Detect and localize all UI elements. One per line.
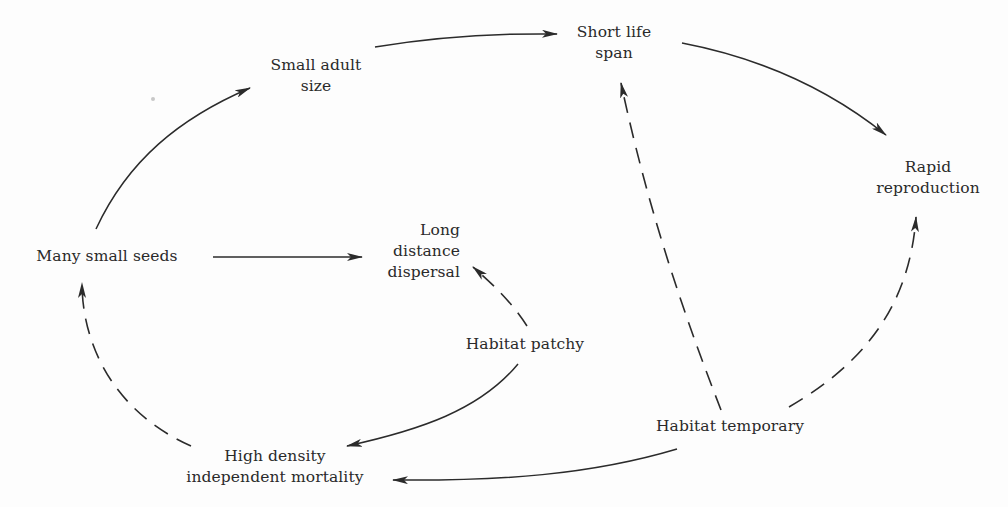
node-rapid-reproduction-line-1: Rapid	[858, 157, 998, 178]
node-long-distance-dispersal-line-1: Long	[370, 220, 460, 241]
node-small-adult-size: Small adult size	[253, 55, 379, 97]
edge-adult-size-to-life-span	[375, 34, 557, 47]
edge-temporary-to-reproduction	[789, 217, 916, 407]
node-high-density-independent-mortality: High density independent mortality	[164, 446, 386, 488]
node-long-distance-dispersal: Long distance dispersal	[370, 220, 460, 283]
node-long-distance-dispersal-line-2: distance	[370, 241, 460, 262]
node-short-life-span: Short life span	[564, 22, 664, 64]
node-short-life-span-line-1: Short life	[564, 22, 664, 43]
node-habitat-temporary: Habitat temporary	[640, 416, 820, 437]
edge-seeds-to-adult-size	[96, 88, 250, 229]
node-long-distance-dispersal-line-3: dispersal	[370, 262, 460, 283]
node-short-life-span-line-2: span	[564, 43, 664, 64]
edge-patchy-to-mortality	[347, 364, 518, 446]
node-many-small-seeds-line-1: Many small seeds	[22, 246, 192, 267]
node-habitat-patchy-line-1: Habitat patchy	[452, 334, 598, 355]
edge-life-span-to-reproduction	[682, 43, 886, 135]
node-small-adult-size-line-1: Small adult	[253, 55, 379, 76]
edge-mortality-to-seeds	[82, 283, 191, 446]
node-habitat-patchy: Habitat patchy	[452, 334, 598, 355]
edge-temporary-to-life-span	[621, 83, 721, 410]
scan-speck	[151, 97, 155, 101]
node-high-density-line-1: High density	[164, 446, 386, 467]
node-rapid-reproduction-line-2: reproduction	[858, 178, 998, 199]
node-high-density-line-2: independent mortality	[164, 467, 386, 488]
node-small-adult-size-line-2: size	[253, 76, 379, 97]
edge-temporary-to-mortality	[393, 449, 677, 480]
edge-patchy-to-dispersal	[473, 267, 527, 326]
diagram-canvas: Small adult size Short life span Rapid r…	[0, 0, 1008, 507]
node-rapid-reproduction: Rapid reproduction	[858, 157, 998, 199]
node-many-small-seeds: Many small seeds	[22, 246, 192, 267]
node-habitat-temporary-line-1: Habitat temporary	[640, 416, 820, 437]
